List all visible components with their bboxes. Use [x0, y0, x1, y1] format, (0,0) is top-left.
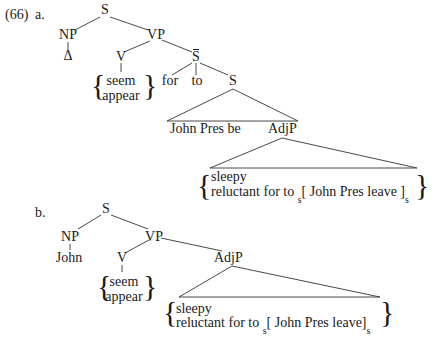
node-s-root-a: S	[101, 3, 109, 17]
node-v-b: V	[117, 251, 127, 265]
left-brace-icon: {	[197, 170, 211, 200]
word-for-a: for	[162, 74, 178, 88]
verb-option-seem-a: seem	[107, 74, 136, 88]
node-s-inner-a: S	[229, 74, 237, 88]
node-np-a: NP	[59, 28, 77, 42]
adj-option-reluctant-b: reluctant for to s[ John Pres leave]s	[176, 316, 370, 331]
triangle-text-a: John Pres be	[170, 122, 241, 136]
node-s-root-b: S	[102, 202, 110, 216]
node-np-b: NP	[61, 230, 79, 244]
verb-option-appear-b: appear	[105, 290, 142, 304]
node-adjp-a: AdjP	[268, 122, 297, 136]
node-delta-a: Δ	[63, 49, 72, 63]
node-john-b: John	[56, 251, 82, 265]
syntax-tree-diagram: (66) a. S NP Δ VP V { seem appear } S fo…	[0, 0, 433, 337]
right-brace-icon: }	[380, 297, 394, 327]
adj-option-sleepy-a: sleepy	[211, 170, 247, 184]
right-brace-icon: }	[415, 170, 429, 200]
subexample-label-a: a.	[35, 8, 45, 22]
node-vp-a: VP	[147, 28, 165, 42]
subexample-label-b: b.	[35, 206, 46, 220]
adj-option-sleepy-b: sleepy	[176, 302, 212, 316]
right-brace-icon: }	[143, 70, 157, 100]
node-sbar-a: S	[192, 50, 200, 64]
adj-option-reluctant-a: reluctant for to s[ John Pres leave ]s	[211, 185, 409, 200]
word-to-a: to	[192, 74, 203, 88]
node-vp-b: VP	[145, 230, 163, 244]
example-number: (66)	[5, 8, 28, 22]
verb-option-appear-a: appear	[102, 89, 139, 103]
verb-option-seem-b: seem	[110, 275, 139, 289]
node-v-a: V	[116, 50, 126, 64]
node-adjp-b: AdjP	[214, 251, 243, 265]
right-brace-icon: }	[143, 271, 157, 301]
